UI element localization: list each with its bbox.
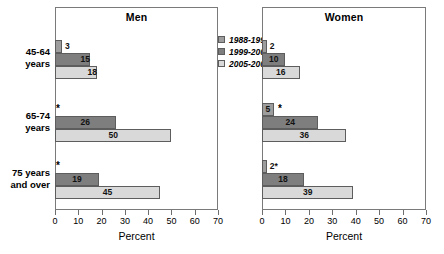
bar-row: 15 (55, 53, 218, 66)
x-tick-label: 0 (52, 216, 57, 226)
x-axis-title-women: Percent (262, 230, 426, 242)
category-label-line2: years (0, 58, 50, 70)
x-tick-label: 20 (304, 216, 314, 226)
x-axis-women: 0 10 20 30 40 50 60 70 Percent (262, 210, 426, 244)
category-label-65-74-men: 65-74 years (0, 110, 50, 133)
category-label-75-over-men: 75 years and over (0, 167, 50, 190)
x-tick (171, 210, 172, 215)
bar-value-2005-2008: 45 (55, 186, 160, 199)
bar-row: 45 (55, 186, 218, 199)
bar-value-1988-1994: 2 (270, 40, 275, 53)
bar-value-1999-2002: 18 (262, 173, 304, 186)
category-label-45-64-men: 45-64 years (0, 46, 50, 69)
bar-value-1999-2002: 26 (55, 116, 116, 129)
x-tick (379, 210, 380, 215)
bar-row: 26 (55, 116, 218, 129)
x-tick (195, 210, 196, 215)
x-tick-label: 40 (143, 216, 153, 226)
bar-value-2005-2008: 50 (55, 129, 171, 142)
x-tick (285, 210, 286, 215)
panel-men: Men 45-64 years 65-74 years 75 years and… (0, 0, 222, 254)
x-tick-label: 60 (398, 216, 408, 226)
x-tick-label: 0 (259, 216, 264, 226)
bar-row: 19 (55, 173, 218, 186)
x-tick-label: 50 (166, 216, 176, 226)
bar-row: 24 (262, 116, 426, 129)
bar-value-1999-2002: 15 (55, 53, 90, 66)
category-label-line2: and over (0, 179, 50, 191)
x-tick (332, 210, 333, 215)
bar-row: 5 * (262, 103, 426, 116)
x-tick (218, 210, 219, 215)
x-tick-label: 70 (421, 216, 431, 226)
x-tick (148, 210, 149, 215)
bar-value-2005-2008: 18 (55, 66, 97, 79)
x-tick-label: 10 (280, 216, 290, 226)
bar-row: 2* (262, 160, 426, 173)
bar-row: 2 (262, 40, 426, 53)
x-tick-label: 60 (190, 216, 200, 226)
x-tick (262, 210, 263, 215)
bar-group-65-74-men: * 26 50 (55, 103, 218, 142)
x-tick (356, 210, 357, 215)
category-label-line2: years (0, 122, 50, 134)
panel-women: Women 2 10 16 (222, 0, 444, 254)
bar-group-75-over-women: 2* 18 39 (262, 160, 426, 199)
bar-row: 18 (55, 66, 218, 79)
bar-row: 50 (55, 129, 218, 142)
x-tick (125, 210, 126, 215)
bar-value-1999-2002: 10 (262, 53, 285, 66)
bar-1988-1994[interactable] (262, 160, 267, 173)
x-tick-label: 10 (73, 216, 83, 226)
bar-value-1988-1994: 3 (65, 40, 70, 53)
x-tick-label: 30 (120, 216, 130, 226)
x-axis-title-men: Percent (55, 230, 218, 242)
bar-row: 39 (262, 186, 426, 199)
bar-1988-1994[interactable] (55, 40, 62, 53)
bar-1988-1994[interactable] (262, 40, 267, 53)
significance-asterisk-1988-1994: * (56, 159, 60, 172)
bar-row: 18 (262, 173, 426, 186)
x-tick (78, 210, 79, 215)
bar-row: 10 (262, 53, 426, 66)
x-tick (102, 210, 103, 215)
bar-group-65-74-women: 5 * 24 36 (262, 103, 426, 142)
plot-area-men: 3 15 18 * 26 (55, 7, 218, 210)
category-label-line1: 65-74 (0, 110, 50, 122)
x-tick-label: 30 (327, 216, 337, 226)
bar-value-2005-2008: 16 (262, 66, 300, 79)
significance-asterisk-1988-1994: * (278, 102, 282, 115)
x-tick (426, 210, 427, 215)
significance-asterisk-1988-1994: * (56, 102, 60, 115)
x-tick-label: 20 (97, 216, 107, 226)
bar-row: * (55, 160, 218, 173)
plot-area-women: 2 10 16 5 * (262, 7, 426, 210)
x-tick (403, 210, 404, 215)
bar-row: 36 (262, 129, 426, 142)
chart-container: Men 45-64 years 65-74 years 75 years and… (0, 0, 444, 254)
bar-row: 16 (262, 66, 426, 79)
x-tick (55, 210, 56, 215)
bar-value-2005-2008: 39 (262, 186, 353, 199)
bar-value-1988-1994: 2* (270, 160, 278, 173)
bar-group-45-64-women: 2 10 16 (262, 40, 426, 79)
bar-row: 3 (55, 40, 218, 53)
bar-value-2005-2008: 36 (262, 129, 346, 142)
category-label-line1: 75 years (0, 167, 50, 179)
x-tick (309, 210, 310, 215)
category-label-line1: 45-64 (0, 46, 50, 58)
x-axis-men: 0 10 20 30 40 50 60 70 Percent (55, 210, 218, 244)
bar-group-75-over-men: * 19 45 (55, 160, 218, 199)
bar-group-45-64-men: 3 15 18 (55, 40, 218, 79)
bar-value-1988-1994: 5 (262, 103, 274, 116)
bar-value-1999-2002: 24 (262, 116, 318, 129)
x-tick-label: 50 (374, 216, 384, 226)
bar-row: * (55, 103, 218, 116)
x-tick-label: 40 (351, 216, 361, 226)
bar-value-1999-2002: 19 (55, 173, 99, 186)
